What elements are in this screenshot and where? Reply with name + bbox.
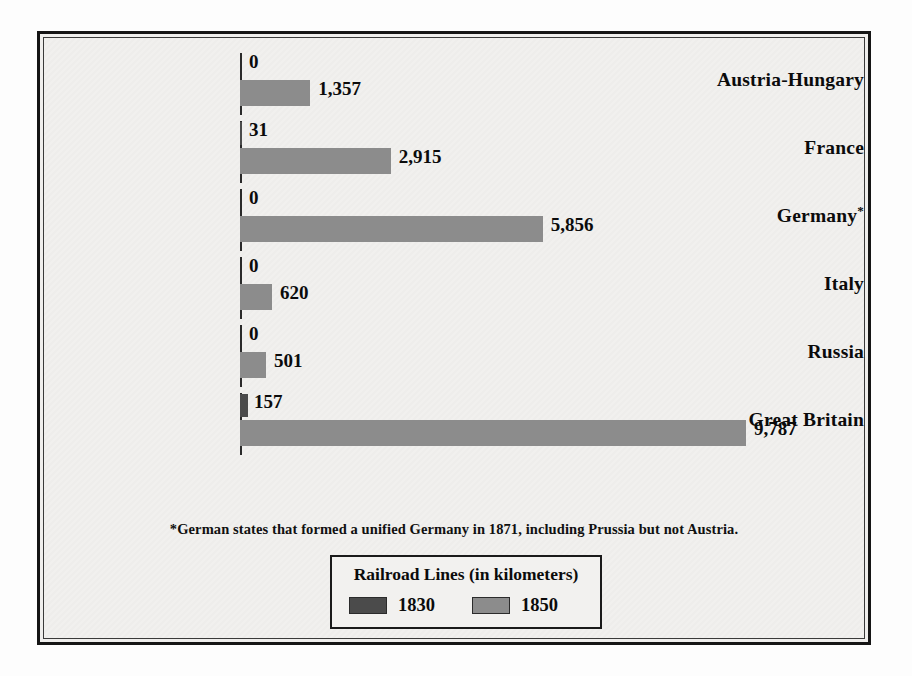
bar-1850 [240, 420, 746, 446]
bar-group: France312,915 [44, 119, 864, 187]
bar-value-1830: 0 [249, 51, 259, 73]
chart-frame-inner: Austria-Hungary01,357France312,915German… [43, 37, 865, 639]
bar-value-1850: 501 [274, 350, 303, 372]
bar-track: 0620 [240, 255, 864, 323]
bar-group: Austria-Hungary01,357 [44, 51, 864, 119]
bar-1850 [240, 80, 310, 106]
bar-value-1850: 5,856 [551, 214, 594, 236]
bar-track: 1579,787 [240, 391, 864, 459]
bar-1830 [240, 122, 242, 145]
chart-frame-outer: Austria-Hungary01,357France312,915German… [37, 31, 871, 645]
bar-group: Great Britain1579,787 [44, 391, 864, 459]
legend-entry-1830: 1830 [349, 595, 435, 616]
bar-1850 [240, 216, 543, 242]
bar-value-1830: 157 [254, 391, 283, 413]
bar-value-1850: 620 [280, 282, 309, 304]
bar-value-1850: 2,915 [399, 146, 442, 168]
legend-title: Railroad Lines (in kilometers) [332, 564, 600, 585]
bar-value-1830: 31 [249, 119, 268, 141]
chart-legend: Railroad Lines (in kilometers) 1830 1850 [330, 555, 602, 629]
bar-value-1850: 1,357 [318, 78, 361, 100]
legend-label-1830: 1830 [398, 595, 435, 616]
bar-track: 05,856 [240, 187, 864, 255]
bar-1850 [240, 352, 266, 378]
bar-group: Germany*05,856 [44, 187, 864, 255]
bar-value-1830: 0 [249, 323, 259, 345]
bar-track: 0501 [240, 323, 864, 391]
chart-footnote: *German states that formed a unified Ger… [44, 521, 864, 538]
legend-swatch-1830 [349, 597, 387, 614]
legend-label-1850: 1850 [521, 595, 558, 616]
bar-value-1830: 0 [249, 187, 259, 209]
bar-1850 [240, 284, 272, 310]
bar-track: 312,915 [240, 119, 864, 187]
bar-value-1830: 0 [249, 255, 259, 277]
bar-1850 [240, 148, 391, 174]
bar-1830 [240, 394, 248, 417]
bar-group: Russia0501 [44, 323, 864, 391]
legend-swatch-1850 [472, 597, 510, 614]
legend-entry-1850: 1850 [472, 595, 558, 616]
chart-page: Austria-Hungary01,357France312,915German… [0, 0, 912, 676]
bar-value-1850: 9,787 [754, 418, 797, 440]
bar-chart-plot-area: Austria-Hungary01,357France312,915German… [44, 38, 864, 638]
bar-group: Italy0620 [44, 255, 864, 323]
bar-track: 01,357 [240, 51, 864, 119]
